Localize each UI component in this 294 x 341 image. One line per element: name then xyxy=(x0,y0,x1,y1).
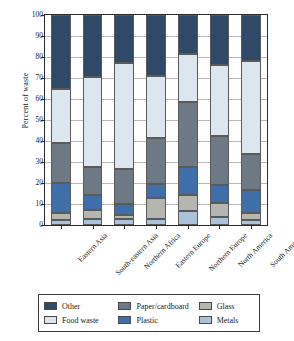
legend-label-plastic: Plastic xyxy=(136,316,157,325)
bar-segment-paper-cardboard xyxy=(83,167,103,194)
bar-segment-plastic xyxy=(51,183,71,213)
legend-label-metals: Metals xyxy=(217,316,239,325)
legend-item-paper-cardboard: Paper/cardboard xyxy=(118,299,198,313)
y-tick-label: 0 xyxy=(19,221,43,229)
legend-swatch-paper-cardboard xyxy=(118,302,131,310)
bar-segment-metals xyxy=(241,220,261,225)
bar-segment-other xyxy=(51,15,71,89)
bar-segment-plastic xyxy=(210,185,230,203)
stacked-bar-chart-figure: Percent of waste 0102030405060708090100 … xyxy=(0,0,294,341)
bar-stack xyxy=(178,15,198,225)
bar-segment-glass xyxy=(51,213,71,219)
y-tick-label: 10 xyxy=(19,200,43,208)
bar-segment-food-waste xyxy=(146,76,166,138)
x-tick-mark xyxy=(93,226,94,229)
bar-segment-paper-cardboard xyxy=(114,169,134,204)
legend-label-food-waste: Food waste xyxy=(62,316,99,325)
x-tick-mark xyxy=(251,226,252,229)
bar-segment-glass xyxy=(241,213,261,219)
x-tick-mark xyxy=(61,226,62,229)
y-tick-label: 80 xyxy=(19,53,43,61)
bar-segment-paper-cardboard xyxy=(210,136,230,185)
legend-item-food-waste: Food waste xyxy=(44,313,118,327)
y-tick-label: 60 xyxy=(19,95,43,103)
x-tick-mark xyxy=(124,226,125,229)
bar-segment-glass xyxy=(83,210,103,218)
bar-segment-glass xyxy=(114,215,134,219)
bar-segment-other xyxy=(210,15,230,65)
bar-segment-metals xyxy=(83,219,103,225)
bar-segment-plastic xyxy=(83,195,103,211)
y-tick-label: 70 xyxy=(19,74,43,82)
bar-segment-paper-cardboard xyxy=(146,138,166,184)
bar-stack xyxy=(146,15,166,225)
bar-segment-glass xyxy=(178,195,198,212)
x-tick-mark xyxy=(188,226,189,229)
bar-segment-food-waste xyxy=(178,54,198,102)
bar-segment-other xyxy=(178,15,198,54)
legend-label-glass: Glass xyxy=(217,302,235,311)
x-tick-label: Eastern Asia xyxy=(76,231,109,264)
legend-swatch-food-waste xyxy=(44,316,57,324)
bar-segment-other xyxy=(146,15,166,76)
legend-label-paper-cardboard: Paper/cardboard xyxy=(136,302,188,311)
y-tick-label: 30 xyxy=(19,158,43,166)
bar-stack xyxy=(83,15,103,225)
bar-segment-other xyxy=(114,15,134,63)
bar-segment-metals xyxy=(146,219,166,225)
legend-swatch-plastic xyxy=(118,316,131,324)
bar-segment-glass xyxy=(210,203,230,217)
bar-segment-plastic xyxy=(114,204,134,215)
bar-series-container xyxy=(45,15,267,225)
legend-label-other: Other xyxy=(62,302,80,311)
legend-item-other: Other xyxy=(44,299,118,313)
legend-swatch-metals xyxy=(199,316,212,324)
bar-segment-food-waste xyxy=(114,63,134,169)
legend-item-glass: Glass xyxy=(199,299,254,313)
bar-segment-plastic xyxy=(146,184,166,198)
bar-segment-other xyxy=(83,15,103,77)
bar-stack xyxy=(241,15,261,225)
bar-segment-food-waste xyxy=(210,65,230,135)
bar-segment-paper-cardboard xyxy=(51,143,71,183)
chart-legend: Other Paper/cardboard Glass Food waste P… xyxy=(38,294,260,332)
y-tick-label: 90 xyxy=(19,32,43,40)
bar-stack xyxy=(210,15,230,225)
legend-row-top: Other Paper/cardboard Glass xyxy=(44,299,254,313)
bar-segment-metals xyxy=(210,217,230,225)
legend-swatch-glass xyxy=(199,302,212,310)
bar-segment-plastic xyxy=(178,167,198,194)
x-tick-mark xyxy=(156,226,157,229)
bar-segment-food-waste xyxy=(241,61,261,153)
bar-segment-metals xyxy=(114,219,134,225)
bar-stack xyxy=(51,15,71,225)
x-tick-mark xyxy=(219,226,220,229)
bar-segment-metals xyxy=(51,220,71,225)
bar-segment-plastic xyxy=(241,190,261,213)
bar-segment-paper-cardboard xyxy=(178,102,198,167)
legend-row-bottom: Food waste Plastic Metals xyxy=(44,313,254,327)
legend-swatch-other xyxy=(44,302,57,310)
bar-segment-metals xyxy=(178,211,198,225)
bar-stack xyxy=(114,15,134,225)
legend-item-metals: Metals xyxy=(199,313,254,327)
legend-item-plastic: Plastic xyxy=(118,313,198,327)
y-tick-label: 100 xyxy=(19,11,43,19)
y-tick-label: 50 xyxy=(19,116,43,124)
y-tick-label: 40 xyxy=(19,137,43,145)
bar-segment-other xyxy=(241,15,261,61)
bar-segment-glass xyxy=(146,198,166,219)
bar-segment-food-waste xyxy=(83,77,103,167)
y-tick-label: 20 xyxy=(19,179,43,187)
bar-segment-paper-cardboard xyxy=(241,154,261,191)
bar-segment-food-waste xyxy=(51,89,71,144)
